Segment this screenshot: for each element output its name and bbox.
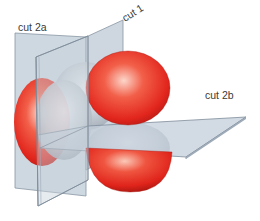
red-lobe-upper-right bbox=[86, 51, 170, 125]
label-cut-2a: cut 2a bbox=[18, 21, 47, 33]
label-cut-1: cut 1 bbox=[120, 1, 146, 23]
label-cut-2b: cut 2b bbox=[205, 89, 234, 101]
front-vertical-plane bbox=[36, 36, 88, 206]
red-lobe-lower bbox=[86, 148, 172, 192]
orbital-cut-diagram: cut 2a cut 1 cut 2b bbox=[0, 0, 260, 221]
